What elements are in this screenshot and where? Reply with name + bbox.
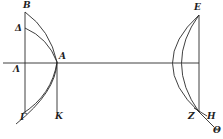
label-Gamma: Γ bbox=[20, 113, 26, 122]
label-B: B bbox=[23, 1, 31, 10]
arc-E-Z-outer bbox=[173, 15, 200, 112]
arc-B-A bbox=[25, 12, 57, 62]
arc-E-Z-inner bbox=[182, 15, 200, 112]
label-Lambda: Λ bbox=[13, 65, 20, 74]
label-E: E bbox=[194, 3, 201, 12]
label-Theta: Θ bbox=[213, 126, 221, 135]
arc-A-Gamma-inner bbox=[22, 62, 57, 114]
line-Z-H bbox=[194, 108, 207, 116]
arc-Delta-A bbox=[25, 28, 57, 62]
label-H: Η bbox=[207, 112, 216, 121]
label-K: K bbox=[55, 112, 63, 121]
label-Delta: Δ bbox=[15, 24, 22, 33]
label-A: A bbox=[59, 52, 66, 61]
label-Z: Z bbox=[188, 112, 195, 121]
